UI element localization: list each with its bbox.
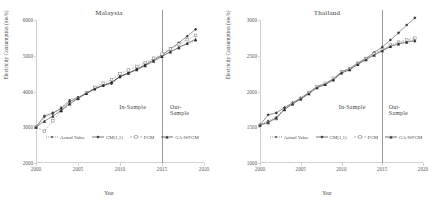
legend-label: Actual Value (284, 135, 309, 140)
y-tick-label: 3000 (23, 124, 33, 130)
data-point-marker (144, 61, 147, 64)
data-point-marker (152, 57, 155, 60)
series-lines (36, 20, 204, 163)
series-lines (260, 20, 423, 163)
y-axis-title: Electricity Consumption (kw/h) (3, 0, 9, 105)
legend-label: GA-WFGM (175, 135, 198, 140)
series-line (36, 41, 196, 127)
legend-item[interactable]: Actual Value (46, 134, 85, 140)
x-tick-label: 2010 (115, 166, 125, 172)
data-point-marker (119, 72, 122, 75)
data-point-marker (52, 120, 55, 123)
data-point-marker (136, 65, 139, 68)
x-tick-label: 2020 (199, 166, 209, 172)
legend-label: FGM (144, 135, 154, 140)
x-axis-title: Year (0, 190, 218, 196)
x-tick-mark (78, 163, 79, 166)
x-tick-label: 2005 (296, 166, 306, 172)
data-point-marker (51, 115, 54, 118)
x-tick-mark (342, 163, 343, 166)
legend-label: Actual Value (60, 135, 85, 140)
x-tick-label: 2000 (31, 166, 41, 172)
x-tick-label: 2000 (255, 166, 265, 172)
x-tick-label: 2015 (377, 166, 387, 172)
legend-item[interactable]: FGM (130, 134, 154, 140)
legend-marker-icon (130, 134, 142, 140)
plot-area: 10001500200025003000 2000200520102015202… (260, 20, 423, 163)
data-point-marker (127, 69, 130, 72)
x-tick-label: 2020 (418, 166, 428, 172)
data-point-marker (51, 136, 53, 138)
series-line (260, 38, 415, 125)
y-tick-label: 3000 (247, 17, 257, 23)
legend-item[interactable]: FGM (354, 134, 378, 140)
series-line (260, 41, 415, 125)
data-point-marker (275, 136, 277, 138)
series-line (36, 39, 196, 127)
legend-label: GA-WFGM (399, 135, 422, 140)
data-point-marker (320, 136, 323, 139)
data-point-marker (178, 43, 181, 46)
legend-item[interactable]: GM(1,1) (316, 134, 347, 140)
plot-area: 20003000400050006000 2000200520102015202… (36, 20, 204, 163)
x-tick-mark (301, 163, 302, 166)
legend-item[interactable]: GM(1,1) (92, 134, 123, 140)
x-tick-label: 2010 (336, 166, 346, 172)
panel-title: Malaysia (0, 9, 218, 17)
y-tick-label: 4000 (23, 89, 33, 95)
data-point-marker (194, 34, 197, 37)
legend-item[interactable]: GA-WFGM (161, 134, 198, 140)
legend-marker-icon (385, 134, 397, 140)
series-line (260, 40, 415, 125)
data-point-marker (177, 46, 180, 49)
y-tick-label: 2500 (247, 53, 257, 59)
legend-marker-icon (92, 134, 104, 140)
y-tick-label: 6000 (23, 17, 33, 23)
data-point-marker (135, 136, 138, 139)
x-tick-mark (120, 163, 121, 166)
data-point-marker (43, 130, 46, 133)
legend-marker-icon (354, 134, 366, 140)
x-tick-label: 2005 (73, 166, 83, 172)
figure-container: Malaysia Electricity Consumption (kw/h) … (0, 0, 436, 200)
chart-legend: Actual ValueGM(1,1)FGMGA-WFGM (46, 134, 199, 140)
y-tick-label: 2000 (247, 89, 257, 95)
data-point-marker (186, 38, 189, 41)
legend-label: GM(1,1) (330, 135, 347, 140)
x-tick-label: 2015 (157, 166, 167, 172)
legend-marker-icon (46, 134, 58, 140)
data-point-marker (43, 120, 46, 123)
data-point-marker (358, 136, 361, 139)
y-tick-label: 5000 (23, 53, 33, 59)
data-point-marker (96, 136, 99, 139)
x-tick-mark (260, 163, 261, 166)
chart-legend: Actual ValueGM(1,1)FGMGA-WFGM (270, 134, 423, 140)
legend-item[interactable]: Actual Value (270, 134, 309, 140)
panel-malaysia: Malaysia Electricity Consumption (kw/h) … (0, 0, 218, 200)
data-point-marker (169, 50, 172, 53)
x-tick-mark (423, 163, 424, 166)
x-axis-title: Year (218, 190, 436, 196)
panel-thailand: Thailand Electricity Consumption (kw/h) … (218, 0, 436, 200)
data-point-marker (194, 38, 197, 41)
x-tick-mark (36, 163, 37, 166)
x-tick-mark (162, 163, 163, 166)
y-axis-title: Electricity Consumption (kw/h) (225, 0, 231, 105)
x-tick-mark (382, 163, 383, 166)
legend-item[interactable]: GA-WFGM (385, 134, 422, 140)
data-point-marker (169, 48, 172, 51)
legend-label: FGM (368, 135, 378, 140)
data-point-marker (275, 111, 278, 114)
x-tick-mark (204, 163, 205, 166)
y-tick-label: 1500 (247, 124, 257, 130)
legend-marker-icon (270, 134, 282, 140)
data-point-marker (51, 111, 54, 114)
panel-title: Thailand (218, 9, 436, 17)
legend-marker-icon (161, 134, 173, 140)
legend-marker-icon (316, 134, 328, 140)
legend-label: GM(1,1) (106, 135, 123, 140)
